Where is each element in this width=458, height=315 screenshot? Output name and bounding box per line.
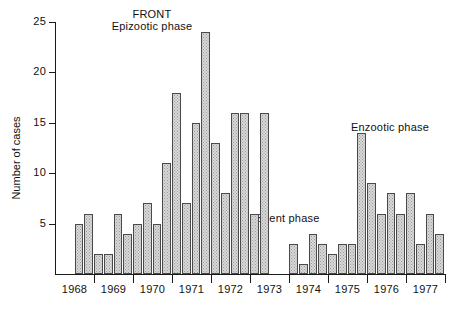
x-tick-label-1970: 1970 (140, 283, 165, 295)
bar (221, 193, 230, 274)
bar (377, 214, 386, 274)
chart-title: FRONT (133, 8, 172, 20)
x-tick-10 (445, 275, 446, 283)
bar (123, 234, 132, 274)
bar (153, 224, 162, 274)
bar (338, 244, 347, 274)
x-tick-label-1972: 1972 (218, 283, 243, 295)
x-tick-5 (250, 275, 251, 283)
bar (240, 113, 249, 274)
x-tick-label-1977: 1977 (413, 283, 438, 295)
bar (143, 203, 152, 274)
bar (299, 264, 308, 274)
bar (231, 113, 240, 274)
x-tick-2 (133, 275, 134, 283)
x-tick-9 (406, 275, 407, 283)
x-tick-6 (289, 275, 290, 283)
bar (357, 133, 366, 274)
x-tick-label-1975: 1975 (335, 283, 360, 295)
bar (172, 93, 181, 274)
bar (387, 193, 396, 274)
bar (182, 203, 191, 274)
bar (309, 234, 318, 274)
bar (289, 244, 298, 274)
x-tick-label-1968: 1968 (62, 283, 87, 295)
bar (435, 234, 444, 274)
x-tick-label-1973: 1973 (257, 283, 282, 295)
y-tick-label-20: 20 (0, 65, 46, 77)
bar (318, 244, 327, 274)
bar (75, 224, 84, 274)
bar (94, 254, 103, 274)
bar (104, 254, 113, 274)
x-tick-4 (211, 275, 212, 283)
bar (192, 123, 201, 274)
bar (328, 254, 337, 274)
x-tick-label-1969: 1969 (101, 283, 126, 295)
x-tick-7 (328, 275, 329, 283)
y-tick-label-15: 15 (0, 116, 46, 128)
bar-chart-figure: FRONT Epizootic phase Silent phase Enzoo… (0, 0, 458, 315)
y-tick-label-5: 5 (0, 217, 46, 229)
plot-area (55, 22, 445, 274)
y-tick-label-25: 25 (0, 15, 46, 27)
bar (348, 244, 357, 274)
x-tick-label-1974: 1974 (296, 283, 321, 295)
bar (84, 214, 93, 274)
bar (426, 214, 435, 274)
bar (416, 244, 425, 274)
bar (396, 214, 405, 274)
bar (201, 32, 210, 274)
y-tick-label-10: 10 (0, 166, 46, 178)
x-tick-1 (94, 275, 95, 283)
x-tick-label-1976: 1976 (374, 283, 399, 295)
bar (114, 214, 123, 274)
bar (250, 214, 259, 274)
bar (406, 193, 415, 274)
x-tick-3 (172, 275, 173, 283)
bar (260, 113, 269, 274)
x-tick-8 (367, 275, 368, 283)
bar (367, 183, 376, 274)
x-tick-label-1971: 1971 (179, 283, 204, 295)
bar (211, 143, 220, 274)
bar (162, 163, 171, 274)
bar (133, 224, 142, 274)
